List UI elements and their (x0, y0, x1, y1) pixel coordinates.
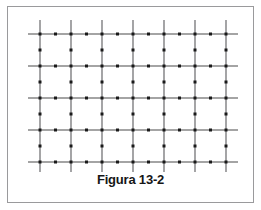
lattice-node-midpoint-vertical (163, 113, 166, 116)
lattice-node-midpoint-vertical (163, 49, 166, 52)
lattice-node-intersection (132, 65, 135, 68)
lattice-node-midpoint-horizontal (54, 97, 57, 100)
lattice-node-midpoint-horizontal (116, 33, 119, 36)
lattice-node-midpoint-vertical (132, 145, 135, 148)
lattice-node-intersection (225, 97, 228, 100)
lattice-node-midpoint-horizontal (85, 129, 88, 132)
lattice-node-intersection (225, 129, 228, 132)
lattice-node-midpoint-vertical (132, 113, 135, 116)
lattice-node-midpoint-horizontal (209, 129, 212, 132)
lattice-node-intersection (39, 129, 42, 132)
lattice-node-midpoint-vertical (132, 49, 135, 52)
lattice-node-midpoint-vertical (70, 81, 73, 84)
lattice-node-intersection (163, 33, 166, 36)
lattice-node-intersection (163, 97, 166, 100)
lattice-node-midpoint-vertical (70, 113, 73, 116)
lattice-node-midpoint-vertical (194, 145, 197, 148)
lattice-node-intersection (163, 65, 166, 68)
lattice-node-intersection (132, 161, 135, 164)
lattice-node-intersection (132, 129, 135, 132)
lattice-node-midpoint-horizontal (147, 161, 150, 164)
lattice-node-intersection (194, 161, 197, 164)
lattice-node-midpoint-horizontal (178, 65, 181, 68)
lattice-node-midpoint-horizontal (147, 65, 150, 68)
lattice-node-intersection (101, 97, 104, 100)
figure-panel: Figura 13-2 (0, 0, 261, 210)
lattice-node-midpoint-horizontal (209, 161, 212, 164)
lattice-node-intersection (70, 33, 73, 36)
lattice-node-intersection (101, 129, 104, 132)
lattice-node-midpoint-horizontal (178, 33, 181, 36)
lattice-node-midpoint-vertical (101, 49, 104, 52)
lattice-node-midpoint-horizontal (178, 161, 181, 164)
lattice-node-midpoint-vertical (39, 145, 42, 148)
lattice-node-intersection (70, 97, 73, 100)
lattice-node-midpoint-horizontal (85, 97, 88, 100)
lattice-node-midpoint-horizontal (178, 129, 181, 132)
lattice-node-midpoint-horizontal (147, 97, 150, 100)
lattice-node-midpoint-horizontal (85, 33, 88, 36)
lattice-node-midpoint-vertical (194, 113, 197, 116)
lattice-node-midpoint-vertical (101, 81, 104, 84)
lattice-node-intersection (163, 129, 166, 132)
lattice-node-intersection (225, 161, 228, 164)
lattice-node-midpoint-vertical (163, 145, 166, 148)
lattice-node-intersection (70, 161, 73, 164)
lattice-node-midpoint-vertical (39, 81, 42, 84)
lattice-node-intersection (225, 33, 228, 36)
lattice-node-intersection (39, 161, 42, 164)
lattice-node-intersection (101, 65, 104, 68)
lattice-node-midpoint-horizontal (116, 65, 119, 68)
lattice-node-midpoint-horizontal (116, 97, 119, 100)
lattice-node-midpoint-horizontal (147, 129, 150, 132)
lattice-node-midpoint-horizontal (116, 129, 119, 132)
lattice-node-intersection (70, 129, 73, 132)
lattice-node-midpoint-vertical (70, 145, 73, 148)
lattice-node-midpoint-vertical (163, 81, 166, 84)
lattice-node-intersection (194, 129, 197, 132)
lattice-node-intersection (194, 33, 197, 36)
lattice-node-intersection (39, 97, 42, 100)
lattice-node-intersection (70, 65, 73, 68)
lattice-node-midpoint-vertical (70, 49, 73, 52)
lattice-node-midpoint-vertical (225, 145, 228, 148)
lattice-node-midpoint-horizontal (54, 33, 57, 36)
lattice-node-intersection (39, 65, 42, 68)
lattice-node-midpoint-horizontal (54, 161, 57, 164)
lattice-node-intersection (101, 161, 104, 164)
lattice-svg (0, 0, 261, 178)
lattice-node-midpoint-horizontal (54, 65, 57, 68)
lattice-node-midpoint-vertical (225, 81, 228, 84)
lattice-node-intersection (194, 65, 197, 68)
lattice-node-midpoint-horizontal (85, 161, 88, 164)
lattice-node-midpoint-horizontal (85, 65, 88, 68)
lattice-node-midpoint-vertical (225, 49, 228, 52)
lattice-node-midpoint-horizontal (147, 33, 150, 36)
lattice-node-midpoint-horizontal (178, 97, 181, 100)
lattice-node-midpoint-horizontal (116, 161, 119, 164)
lattice-node-midpoint-vertical (39, 113, 42, 116)
lattice-node-intersection (132, 97, 135, 100)
lattice-node-midpoint-vertical (194, 81, 197, 84)
lattice-node-midpoint-vertical (101, 113, 104, 116)
lattice-node-intersection (225, 65, 228, 68)
figure-caption: Figura 13-2 (0, 172, 261, 187)
lattice-node-intersection (39, 33, 42, 36)
lattice-node-intersection (194, 97, 197, 100)
lattice-diagram (0, 0, 261, 178)
lattice-node-midpoint-vertical (225, 113, 228, 116)
lattice-node-intersection (163, 161, 166, 164)
grid-lines-group (28, 20, 238, 172)
lattice-node-midpoint-vertical (101, 145, 104, 148)
lattice-node-midpoint-vertical (39, 49, 42, 52)
lattice-node-midpoint-horizontal (54, 129, 57, 132)
lattice-node-intersection (101, 33, 104, 36)
lattice-node-midpoint-horizontal (209, 97, 212, 100)
lattice-node-midpoint-vertical (132, 81, 135, 84)
lattice-node-intersection (132, 33, 135, 36)
lattice-node-midpoint-horizontal (209, 65, 212, 68)
lattice-node-midpoint-horizontal (209, 33, 212, 36)
lattice-node-midpoint-vertical (194, 49, 197, 52)
